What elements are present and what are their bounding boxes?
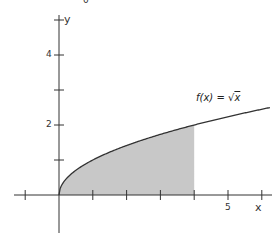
y-tick-label: 2 [46, 120, 52, 129]
y-tick-label: 4 [46, 50, 52, 59]
shaded-area [59, 125, 194, 195]
function-lhs: f(x) [196, 92, 213, 103]
function-rhs: x [234, 92, 240, 103]
x-axis-label: x [255, 202, 262, 213]
top-fragment-label: 0 [83, 0, 89, 5]
function-label: f(x) = √x [196, 92, 240, 103]
y-axis-label: y [64, 14, 71, 25]
sqrt-area-plot [0, 0, 280, 235]
x-tick-label: 5 [225, 203, 231, 212]
function-eq: = [216, 92, 224, 103]
